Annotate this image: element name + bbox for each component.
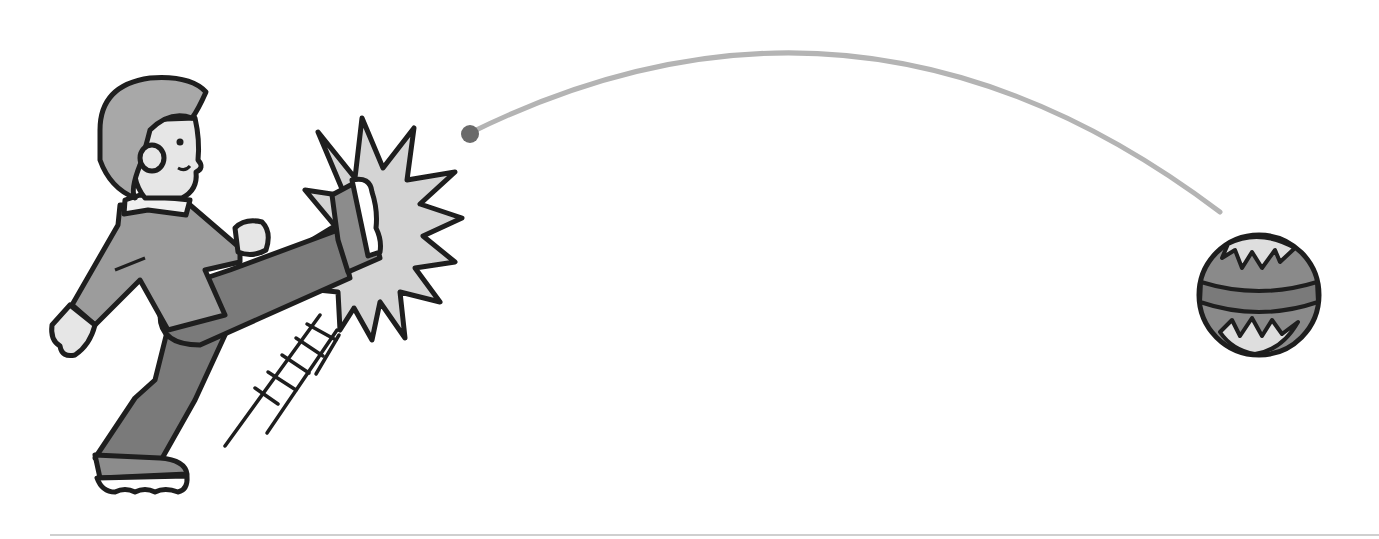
trajectory-start-dot	[461, 125, 479, 143]
ear	[140, 145, 164, 171]
kick-ball-illustration	[0, 0, 1379, 539]
illustration-canvas: Boy kicking a ball; ball flies along an …	[0, 0, 1379, 539]
impact-burst	[305, 118, 462, 340]
boy-figure	[52, 78, 381, 492]
motion-lines	[225, 315, 339, 446]
trajectory-arc	[461, 53, 1220, 212]
eye	[177, 139, 184, 146]
ball	[1199, 235, 1319, 355]
fist	[235, 221, 268, 255]
standing-shoe-sole	[97, 476, 187, 492]
jacket	[72, 205, 240, 330]
